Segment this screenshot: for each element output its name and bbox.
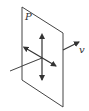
wave-polarization-diagram: P v [0, 0, 89, 111]
velocity-arrow [63, 42, 79, 50]
plane-label: P [24, 11, 32, 22]
velocity-label: v [79, 44, 85, 55]
